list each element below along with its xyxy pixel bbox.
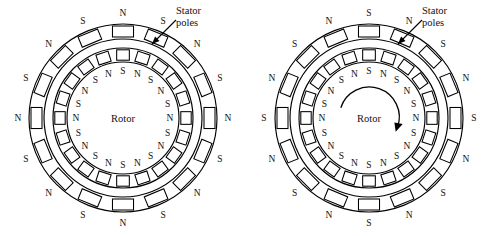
stator-pole-label: N — [45, 188, 52, 198]
stator-pole-label: N — [120, 8, 127, 18]
rotor-pole-label: N — [380, 69, 387, 79]
stator-pole-label: S — [292, 39, 297, 49]
rotor-center-label: Rotor — [111, 113, 135, 124]
stator-pole — [31, 107, 42, 128]
rotor-pole-label: S — [366, 66, 371, 76]
rotor-pole-label: N — [328, 141, 335, 151]
stator-pole — [324, 29, 348, 47]
motor-cross-section: NSNSNSNSNSNSNSNSSNSNSNSNSNSNSNSNSNSNRoto… — [15, 5, 232, 228]
stator-pole — [34, 73, 52, 97]
rotor-pole — [363, 50, 376, 60]
stator-pole — [297, 46, 320, 69]
stator-pole — [358, 26, 379, 37]
stator-pole — [280, 73, 298, 97]
stator-pole — [173, 46, 196, 69]
rotor-pole — [363, 176, 376, 186]
stator-pole-label: N — [325, 210, 332, 220]
rotor-pole-label: N — [105, 69, 112, 79]
rotor-pole-label: N — [82, 141, 89, 151]
rotor-pole — [96, 51, 111, 65]
rotor-pole — [176, 91, 190, 106]
rotor-pole — [152, 59, 168, 75]
stator-pole — [112, 26, 133, 37]
rotor-pole-label: N — [328, 86, 335, 96]
stator-pole — [419, 168, 442, 191]
rotor-pole-label: N — [158, 141, 165, 151]
stator-pole-label: N — [225, 113, 232, 123]
stator-pole-label: S — [441, 188, 446, 198]
rotor-pole — [78, 59, 94, 75]
stator-pole — [440, 73, 458, 97]
motor-diagram-left: NSNSNSNSNSNSNSNSSNSNSNSNSNSNSNSNSNSNRoto… — [0, 0, 246, 236]
stator-pole-label: S — [471, 113, 476, 123]
rotor-pole-label: S — [322, 128, 327, 138]
stator-pole — [450, 107, 461, 128]
rotor-pole — [56, 130, 70, 145]
rotor-pole — [64, 147, 80, 163]
rotor-pole-label: S — [120, 66, 125, 76]
rotor-pole-label: S — [148, 75, 153, 85]
rotor-pole-label: S — [339, 151, 344, 161]
rotor-pole — [64, 73, 80, 89]
stator-pole-label: S — [217, 154, 222, 164]
rotor-pole — [166, 147, 182, 163]
rotor-pole-label: S — [76, 99, 81, 109]
rotor-pole — [310, 147, 326, 163]
rotor-pole-label: S — [411, 128, 416, 138]
stator-pole — [297, 168, 320, 191]
stator-pole — [51, 46, 74, 69]
rotor-pole — [422, 130, 436, 145]
rotor-pole — [135, 171, 150, 185]
stator-pole-label: S — [366, 8, 371, 18]
rotor-pole — [117, 176, 130, 186]
stator-pole — [280, 139, 298, 163]
rotor-pole-label: S — [76, 128, 81, 138]
rotor-pole — [302, 130, 316, 145]
rotor-pole-label: S — [411, 99, 416, 109]
stator-pole-label: S — [23, 73, 28, 83]
rotor-pole-label: N — [351, 158, 358, 168]
stator-pole-label: N — [194, 188, 201, 198]
rotor-pole — [342, 51, 357, 65]
rotation-arrow-head — [394, 123, 402, 132]
stator-pole-label: N — [120, 218, 127, 228]
rotor-pole-label: N — [167, 113, 174, 123]
stator-pole-label: N — [406, 210, 413, 220]
rotor-pole — [56, 91, 70, 106]
rotor-pole-label: N — [105, 158, 112, 168]
stator-pole — [78, 189, 102, 207]
stator-pole-label: S — [161, 16, 166, 26]
motor-diagram-right: SNSNSNSNSNSNSNSNSNSNSNSNSNSNSNSNSNSNRoto… — [246, 0, 492, 236]
rotor-pole-label: N — [158, 86, 165, 96]
stator-pole — [112, 199, 133, 210]
rotor-pole — [135, 51, 150, 65]
rotor-pole — [310, 73, 326, 89]
stator-pole — [440, 139, 458, 163]
rotor-pole-label: S — [165, 128, 170, 138]
rotor-pole-label: N — [413, 113, 420, 123]
rotor-pole — [398, 59, 414, 75]
rotor-pole — [301, 112, 311, 125]
stator-pole-label: N — [269, 73, 276, 83]
rotor-pole — [412, 73, 428, 89]
stator-pole-label: S — [217, 73, 222, 83]
stator-pole — [34, 139, 52, 163]
rotor-pole-label: N — [351, 69, 358, 79]
rotor-pole — [181, 112, 191, 125]
rotor-pole-label: S — [322, 99, 327, 109]
rotor-pole-label: S — [339, 75, 344, 85]
rotor-pole-label: S — [394, 151, 399, 161]
stator-pole-label: S — [441, 39, 446, 49]
stator-pole — [173, 168, 196, 191]
stator-pole-label: N — [406, 16, 413, 26]
callout-label-line1: Stator — [176, 5, 202, 16]
stator-pole — [419, 46, 442, 69]
rotor-pole-label: S — [120, 160, 125, 170]
rotor-pole — [176, 130, 190, 145]
stator-pole-label: N — [15, 113, 22, 123]
rotor-pole-label: S — [93, 75, 98, 85]
rotor-pole — [427, 112, 437, 125]
stator-pole — [51, 168, 74, 191]
rotor-pole — [117, 50, 130, 60]
stator-pole — [277, 107, 288, 128]
